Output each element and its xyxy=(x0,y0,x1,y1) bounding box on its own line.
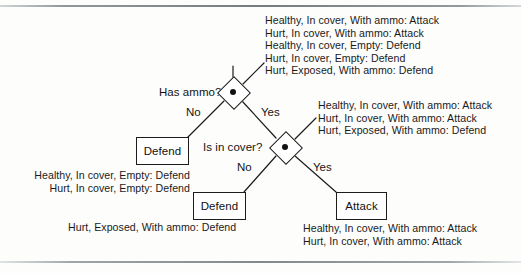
annotation-line: Healthy, In cover, Empty: Defend xyxy=(12,169,190,182)
annotation-line: Hurt, Exposed, With ammo: Defend xyxy=(68,221,236,234)
leaf-box-defend-no-cover-label: Defend xyxy=(201,200,239,212)
annotation-line: Hurt, In cover, Empty: Defend xyxy=(12,182,190,195)
branch-label-has-ammo-no: No xyxy=(186,106,201,118)
decision-tree-figure: Has ammo? No Yes Is in cover? No Yes Def… xyxy=(0,0,521,273)
annotation-attack-examples: Healthy, In cover, With ammo: Attack Hur… xyxy=(303,222,477,247)
node-label-is-in-cover: Is in cover? xyxy=(203,141,262,153)
annotation-defend-no-ammo-examples: Healthy, In cover, Empty: Defend Hurt, I… xyxy=(12,169,190,194)
annotation-line: Healthy, In cover, Empty: Defend xyxy=(265,39,439,52)
leader-cover-examples xyxy=(295,118,316,139)
annotation-line: Hurt, In cover, With ammo: Attack xyxy=(303,235,477,248)
branch-label-has-ammo-yes: Yes xyxy=(261,106,280,118)
annotation-line: Hurt, Exposed, With ammo: Defend xyxy=(318,124,492,137)
annotation-line: Hurt, Exposed, With ammo: Defend xyxy=(265,64,439,77)
node-label-has-ammo: Has ammo? xyxy=(159,86,221,98)
decision-node-is-in-cover-dot xyxy=(282,144,288,150)
annotation-defend-no-cover-examples: Hurt, Exposed, With ammo: Defend xyxy=(68,221,236,234)
annotation-line: Hurt, In cover, With ammo: Attack xyxy=(265,27,439,40)
annotation-line: Healthy, In cover, With ammo: Attack xyxy=(265,14,439,27)
annotation-line: Healthy, In cover, With ammo: Attack xyxy=(303,222,477,235)
leaf-box-defend-no-ammo[interactable]: Defend xyxy=(136,137,189,165)
decision-node-has-ammo-dot xyxy=(230,89,236,95)
annotation-line: Healthy, In cover, With ammo: Attack xyxy=(318,99,492,112)
annotation-line: Hurt, In cover, Empty: Defend xyxy=(265,52,439,65)
annotation-line: Hurt, In cover, With ammo: Attack xyxy=(318,112,492,125)
leaf-box-attack-label: Attack xyxy=(345,200,378,212)
leaf-box-attack[interactable]: Attack xyxy=(336,192,387,220)
branch-label-is-in-cover-yes: Yes xyxy=(313,161,332,173)
annotation-root-examples: Healthy, In cover, With ammo: Attack Hur… xyxy=(265,14,439,77)
leader-root-examples xyxy=(243,63,264,84)
leaf-box-defend-no-ammo-label: Defend xyxy=(144,145,182,157)
leaf-box-defend-no-cover[interactable]: Defend xyxy=(193,192,246,220)
annotation-cover-examples: Healthy, In cover, With ammo: Attack Hur… xyxy=(318,99,492,137)
branch-label-is-in-cover-no: No xyxy=(237,161,252,173)
